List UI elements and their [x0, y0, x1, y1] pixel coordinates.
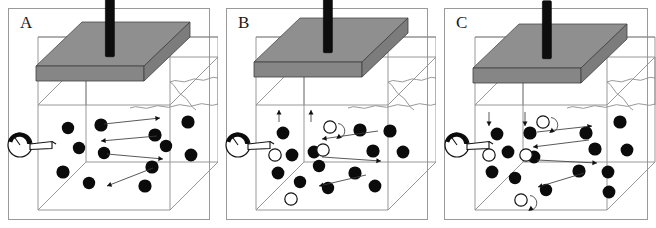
- gauge-pipe-tip: [489, 142, 493, 145]
- particle-settled: [523, 126, 536, 139]
- flow-arrow-head: [592, 160, 597, 165]
- flow-arrow-line: [537, 160, 597, 163]
- gauge-pipe-tip: [270, 142, 274, 145]
- particle-settled: [56, 165, 69, 178]
- flow-arrow-head: [158, 156, 163, 161]
- flow-arrow-head: [155, 116, 160, 121]
- vertical-arrow-head: [277, 110, 282, 115]
- gauge-pipe: [30, 142, 52, 150]
- figure-root: A B C: [0, 0, 656, 228]
- flow-arrow-line: [104, 118, 160, 124]
- particle-settled: [579, 126, 592, 139]
- pressure-gauge: [226, 133, 274, 157]
- panel-a-drawing: [0, 0, 218, 228]
- particle-settled: [486, 166, 499, 179]
- pressure-gauge: [8, 133, 56, 157]
- particle-suspended: [515, 194, 527, 206]
- flow-arrow-line: [319, 175, 366, 186]
- particle-settled: [491, 128, 504, 141]
- particle-suspended: [520, 149, 532, 161]
- tank-edge-br: [170, 162, 218, 210]
- flow-arrow-line: [107, 154, 163, 159]
- flow-arrow-line: [101, 136, 157, 141]
- particle-suspended: [269, 149, 281, 161]
- particle-suspended: [285, 193, 297, 205]
- particle-settled: [94, 118, 107, 131]
- flow-arrow-line: [538, 173, 584, 187]
- particle-settled: [181, 115, 194, 128]
- particle-settled: [160, 140, 172, 152]
- particle-suspended: [317, 144, 329, 156]
- particle-settled: [148, 128, 161, 141]
- gauge-pipe-tip: [52, 142, 56, 145]
- plate-front-face: [254, 62, 362, 77]
- particle-settled: [272, 167, 285, 180]
- particle-settled: [502, 146, 515, 159]
- weight-plate: [473, 1, 627, 83]
- piston-rod: [542, 1, 551, 59]
- vertical-arrow-head: [487, 121, 492, 126]
- particle-suspended: [324, 121, 336, 133]
- plate-front-face: [36, 66, 144, 81]
- flow-arrow-head: [538, 183, 543, 188]
- tank-edge-br: [388, 162, 436, 210]
- panel-c: C: [436, 0, 656, 228]
- particle-settled: [73, 142, 85, 154]
- particle-settled: [397, 146, 410, 159]
- particle-settled: [277, 127, 290, 140]
- panel-c-drawing: [436, 0, 656, 228]
- particle-settled: [603, 186, 616, 199]
- particle-settled: [62, 122, 74, 134]
- particle-settled: [313, 160, 325, 172]
- gauge-pipe: [248, 142, 270, 150]
- particle-settled: [83, 177, 95, 189]
- particle-settled: [613, 115, 626, 128]
- water-line-front: [348, 104, 436, 109]
- panel-b: B: [218, 0, 436, 228]
- piston-rod: [323, 0, 332, 53]
- flow-arrow-head: [101, 138, 106, 143]
- particles: [56, 115, 197, 192]
- flow-arrow-line: [533, 140, 589, 147]
- flow-arrows: [101, 116, 163, 187]
- flow-arrow-head: [322, 136, 327, 141]
- particle-settled: [294, 176, 306, 188]
- weight-plate: [254, 0, 408, 77]
- particle-settled: [588, 142, 601, 155]
- panel-a: A: [0, 0, 218, 228]
- particle-suspended: [537, 116, 549, 128]
- vertical-arrows: [277, 110, 314, 122]
- particle-settled: [369, 180, 382, 193]
- tank-edge-br: [607, 162, 655, 210]
- particle-settled: [286, 149, 299, 162]
- water-line-front: [130, 104, 218, 109]
- particle-settled: [509, 172, 521, 184]
- flow-arrow-line: [322, 157, 381, 161]
- flow-arrows: [319, 131, 381, 187]
- panel-b-drawing: [218, 0, 436, 228]
- vertical-arrows: [487, 112, 528, 126]
- water-line-front: [567, 104, 655, 109]
- weight-plate: [36, 0, 190, 81]
- piston-rod: [105, 0, 114, 57]
- vertical-arrow-head: [309, 110, 314, 115]
- particle-settled: [98, 147, 110, 159]
- gauge-pipe: [467, 142, 489, 150]
- particle-settled: [185, 149, 198, 162]
- particle-settled: [145, 160, 158, 173]
- particle-settled: [366, 144, 379, 157]
- loop-arrow-head: [529, 206, 534, 211]
- flow-arrow-head: [533, 144, 538, 149]
- particle-settled: [621, 144, 634, 157]
- particle-settled: [383, 124, 396, 137]
- particle-settled: [602, 166, 615, 179]
- particle-settled: [138, 179, 151, 192]
- plate-front-face: [473, 68, 581, 83]
- particle-suspended: [483, 149, 495, 161]
- flow-arrow-head: [319, 183, 324, 188]
